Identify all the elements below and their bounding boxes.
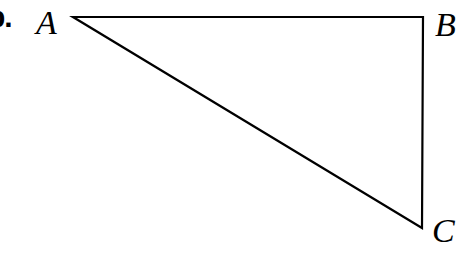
geometry-figure: b. A B C xyxy=(0,0,471,256)
triangle-drawing xyxy=(0,0,471,256)
vertex-label-a: A xyxy=(36,6,57,40)
triangle-shape xyxy=(73,17,423,228)
vertex-label-c: C xyxy=(432,214,455,248)
vertex-label-b: B xyxy=(435,8,456,42)
